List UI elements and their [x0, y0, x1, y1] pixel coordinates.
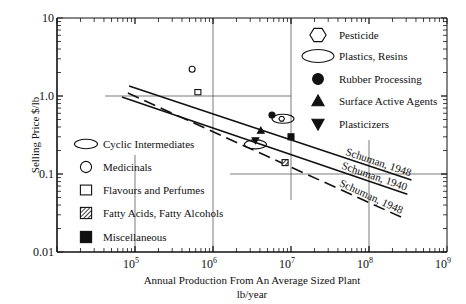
legend-label: Plastics, Resins: [339, 50, 407, 62]
y-tick-label: 0.1: [39, 167, 54, 181]
legend-item: Plastics, Resins: [302, 49, 407, 62]
y-tick-label: 0.01: [33, 245, 54, 259]
legend-item: Plasticizers: [312, 118, 389, 130]
legend-label: Flavours and Perfumes: [103, 184, 204, 196]
filled-circle-icon: [313, 74, 324, 85]
x-tick-label: 109: [435, 256, 451, 271]
legend-label: Miscellaneous: [103, 231, 167, 243]
y-axis-title: Selling Price $/lb: [29, 96, 41, 173]
x-tick-label: 108: [357, 256, 373, 271]
hatched-square-icon: [80, 207, 91, 218]
hexagon-icon: [279, 117, 285, 122]
legend-item: Rubber Processing: [313, 73, 423, 85]
triangle-down-icon: [312, 119, 324, 130]
filled-square-icon: [288, 134, 294, 140]
legend-label: Surface Active Agents: [339, 95, 437, 107]
open-ellipse-icon: [74, 139, 97, 148]
price-vs-production-chart: 101.00.10.01 105106107108109 Schuman, 19…: [0, 0, 466, 304]
hexagon-icon: [310, 28, 326, 41]
legend-left: Cyclic IntermediatesMedicinalsFlavours a…: [74, 138, 223, 243]
x-axis-title: Annual Production From An Average Sized …: [144, 274, 361, 286]
legend-label: Pesticide: [339, 29, 379, 41]
x-axis-units: lb/year: [237, 288, 268, 300]
y-tick-label: 10: [42, 11, 54, 25]
legend-item: Flavours and Perfumes: [80, 184, 204, 196]
x-tick-label: 106: [201, 256, 217, 271]
legend-label: Medicinals: [103, 161, 152, 173]
legend-right: PesticidePlastics, ResinsRubber Processi…: [302, 28, 437, 130]
legend-label: Plasticizers: [339, 118, 389, 130]
legend-label: Rubber Processing: [339, 73, 422, 85]
x-tick-label: 105: [123, 256, 139, 271]
hatched-square-icon: [282, 160, 288, 166]
legend-item: Cyclic Intermediates: [74, 138, 194, 150]
legend-item: Pesticide: [310, 28, 379, 41]
x-tick-labels: 105106107108109: [123, 256, 451, 271]
legend-item: Surface Active Agents: [312, 95, 437, 107]
legend-item: Medicinals: [80, 161, 151, 173]
open-circle-icon: [189, 66, 195, 72]
legend-label: Cyclic Intermediates: [103, 138, 194, 150]
open-square-icon: [80, 185, 91, 195]
filled-square-icon: [80, 231, 91, 242]
legend-item: Miscellaneous: [80, 231, 166, 243]
open-square-icon: [195, 90, 201, 95]
filled-circle-icon: [269, 112, 275, 118]
legend-item: Fatty Acids, Fatty Alcohols: [80, 207, 223, 219]
open-ellipse-icon: [302, 49, 334, 62]
triangle-up-icon: [312, 95, 324, 106]
open-circle-icon: [80, 161, 91, 172]
legend-label: Fatty Acids, Fatty Alcohols: [103, 207, 223, 219]
y-tick-label: 1.0: [39, 89, 54, 103]
x-tick-label: 107: [279, 256, 295, 271]
